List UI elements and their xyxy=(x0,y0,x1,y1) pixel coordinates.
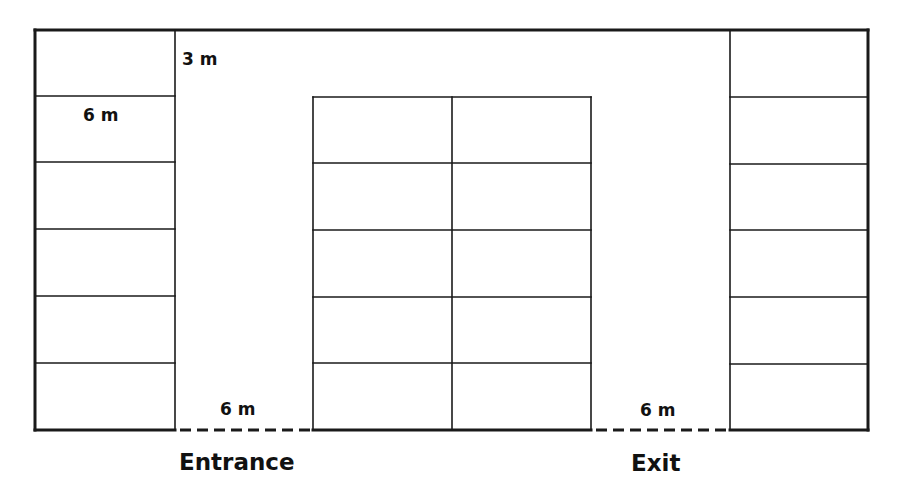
space-length-label: 6 m xyxy=(83,107,118,124)
exit-label: Exit xyxy=(631,452,680,475)
left-parking-column xyxy=(35,30,175,430)
right-parking-column xyxy=(730,30,868,430)
parking-lot-diagram xyxy=(0,0,898,493)
entrance-width-label: 6 m xyxy=(220,401,255,418)
middle-parking-block xyxy=(313,97,591,430)
exit-width-label: 6 m xyxy=(640,402,675,419)
aisle-width-label: 3 m xyxy=(182,51,217,68)
entrance-label: Entrance xyxy=(179,451,295,474)
